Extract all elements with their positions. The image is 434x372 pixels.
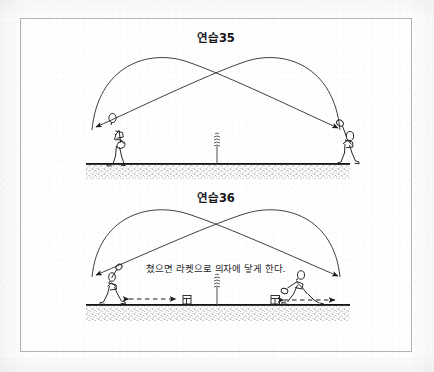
court-ground (86, 163, 350, 179)
exercise-panel-35: 연습35 (20, 18, 412, 186)
tennis-player-right (335, 119, 359, 165)
center-net-post (214, 274, 220, 305)
diagram-scene-36 (20, 183, 412, 352)
center-net-post (214, 133, 220, 164)
exercise-panel-36: 연습36 쳤으면 라켓으로 의자에 닿게 한다. (20, 183, 412, 352)
ball-trajectory-left-to-right (92, 210, 338, 277)
target-chair-right (271, 296, 280, 305)
tennis-player-left (107, 113, 126, 166)
scanned-page: 연습35 (0, 0, 434, 372)
ball-trajectory-right-to-left (96, 210, 340, 277)
ball-trajectory-right-to-left (96, 58, 340, 130)
diagram-scene-35 (20, 18, 412, 187)
target-chair-left (183, 296, 191, 305)
court-ground (86, 304, 350, 321)
tennis-player-left (100, 263, 125, 305)
ball-trajectory-left-to-right (92, 58, 338, 130)
